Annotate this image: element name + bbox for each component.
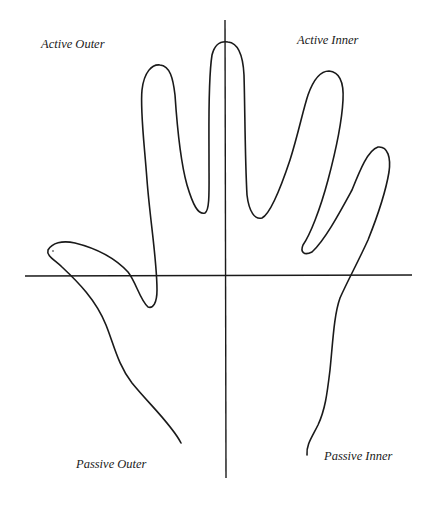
label-passive-inner: Passive Inner — [324, 450, 392, 463]
label-active-inner: Active Inner — [297, 34, 358, 47]
hand-outline — [48, 42, 390, 455]
label-passive-outer: Passive Outer — [76, 458, 146, 471]
hand-quadrant-diagram — [0, 0, 434, 508]
thumb-dot — [52, 250, 54, 252]
label-active-outer: Active Outer — [41, 38, 105, 51]
horizontal-axis — [25, 275, 412, 276]
vertical-axis — [225, 20, 226, 478]
